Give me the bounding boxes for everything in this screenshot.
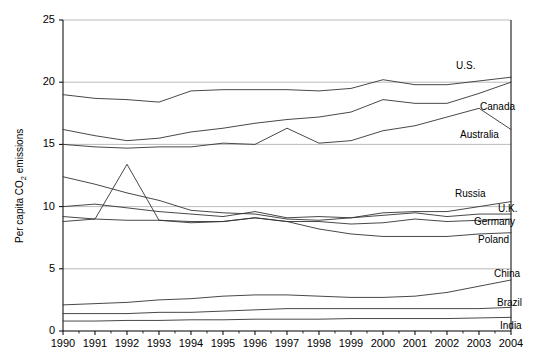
y-axis-tick-label: 15	[29, 137, 55, 149]
series-line-u-s	[63, 77, 511, 102]
y-axis-tick-label: 0	[29, 324, 55, 336]
series-line-china	[63, 280, 511, 305]
series-label-u-k: U.K.	[498, 203, 517, 214]
series-line-india	[63, 317, 511, 321]
series-line-brazil	[63, 307, 511, 313]
chart-plot-area	[0, 0, 547, 356]
series-label-poland: Poland	[478, 234, 509, 245]
y-axis-title-suffix: emissions	[14, 129, 25, 176]
y-axis-tick-label: 10	[29, 200, 55, 212]
y-axis-tick-label: 5	[29, 262, 55, 274]
y-axis-tick-label: 20	[29, 75, 55, 87]
x-axis-tick-label: 2004	[491, 337, 531, 349]
series-line-canada	[63, 82, 511, 140]
series-line-australia	[63, 108, 511, 148]
chart-container: Per capita CO2 emissions 0510152025 1990…	[0, 0, 547, 356]
series-label-u-s: U.S.	[456, 60, 475, 71]
series-label-australia: Australia	[460, 129, 499, 140]
series-label-china: China	[494, 268, 520, 279]
series-label-germany: Germany	[474, 216, 515, 227]
series-line-russia	[63, 177, 511, 221]
series-label-russia: Russia	[455, 188, 486, 199]
series-line-poland	[63, 164, 511, 236]
y-axis-title-prefix: Per capita CO	[14, 180, 25, 243]
series-label-brazil: Brazil	[497, 297, 522, 308]
y-axis-title-subscript: 2	[19, 176, 28, 180]
y-axis-title: Per capita CO2 emissions	[14, 129, 28, 243]
series-line-u-k	[63, 204, 511, 218]
y-axis-tick-label: 25	[29, 13, 55, 25]
series-label-canada: Canada	[480, 101, 515, 112]
series-label-india: India	[500, 320, 522, 331]
